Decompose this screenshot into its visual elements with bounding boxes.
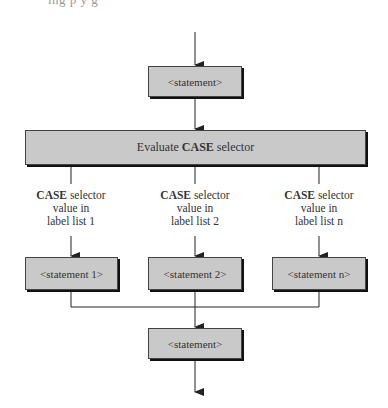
branch-keyword: CASE bbox=[160, 189, 191, 201]
branch-keyword: CASE bbox=[36, 189, 67, 201]
statement-n-label: <statement n> bbox=[288, 268, 351, 280]
branch-keyword: CASE bbox=[284, 189, 315, 201]
branch-text: value in bbox=[140, 202, 250, 215]
statement-n-box: <statement n> bbox=[272, 257, 366, 290]
evaluate-case-selector-box: Evaluate CASE selector bbox=[25, 130, 366, 165]
evaluate-prefix: Evaluate bbox=[137, 140, 179, 155]
branch-text: selector bbox=[191, 189, 230, 201]
top-statement-box: <statement> bbox=[148, 66, 242, 97]
evaluate-keyword: CASE bbox=[182, 140, 214, 155]
statement-2-box: <statement 2> bbox=[148, 257, 242, 290]
branch-text: label list n bbox=[264, 215, 374, 228]
branch-text: label list 2 bbox=[140, 215, 250, 228]
branch-text: value in bbox=[264, 202, 374, 215]
branch-label-2: CASE selector value in label list 2 bbox=[140, 189, 250, 228]
branch-text: selector bbox=[67, 189, 106, 201]
branch-text: value in bbox=[16, 202, 126, 215]
branch-label-n: CASE selector value in label list n bbox=[264, 189, 374, 228]
branch-text: label list 1 bbox=[16, 215, 126, 228]
branch-text: selector bbox=[315, 189, 354, 201]
statement-2-label: <statement 2> bbox=[164, 268, 227, 280]
evaluate-suffix: selector bbox=[217, 140, 254, 155]
branch-label-1: CASE selector value in label list 1 bbox=[16, 189, 126, 228]
statement-1-box: <statement 1> bbox=[25, 257, 118, 290]
bottom-statement-box: <statement> bbox=[148, 328, 242, 359]
bottom-statement-label: <statement> bbox=[168, 338, 223, 350]
statement-1-label: <statement 1> bbox=[40, 268, 103, 280]
top-statement-label: <statement> bbox=[168, 76, 223, 88]
